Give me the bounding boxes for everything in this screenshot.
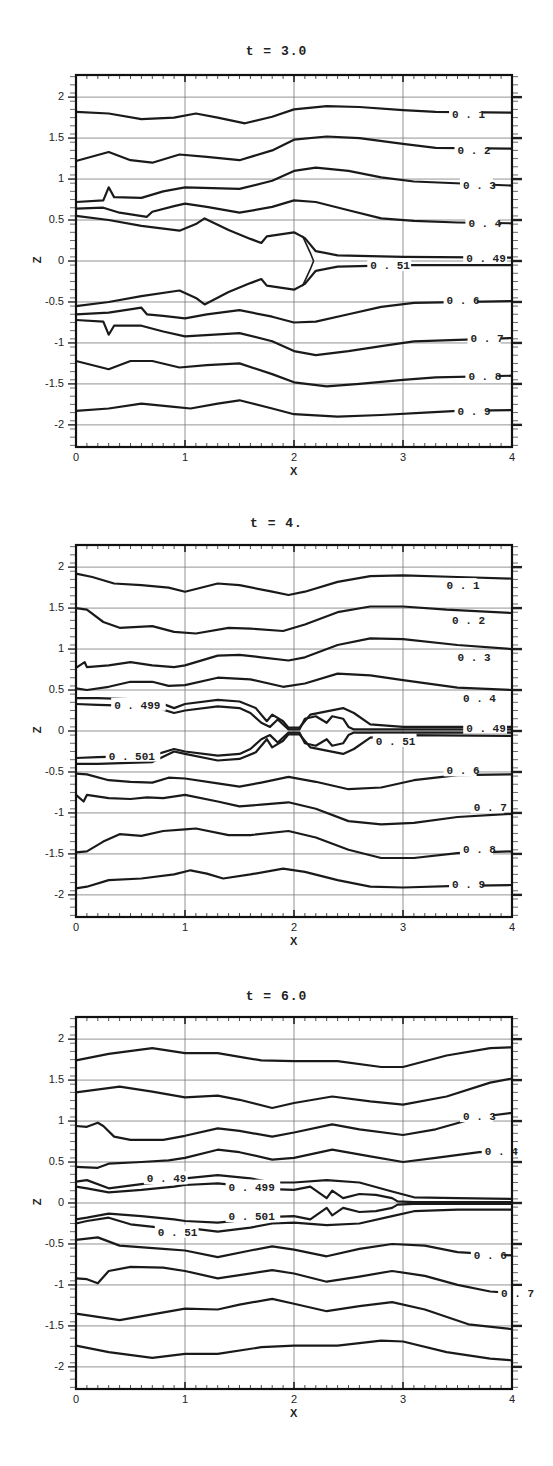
contour-label: 0 . 49: [466, 253, 506, 265]
contour-plot: 0 . 10 . 20 . 30 . 40 . 490 . 510 . 60 .…: [76, 75, 512, 447]
contour-label: 0 . 501: [229, 1211, 276, 1223]
contour-label: 0 . 4: [485, 1146, 518, 1158]
y-tick-label: 1: [34, 172, 64, 184]
y-tick-label: 0.5: [34, 683, 64, 695]
contour-label: 0 . 4: [463, 693, 496, 705]
y-tick-label: -2: [34, 418, 64, 430]
x-tick-label: 3: [393, 1393, 413, 1405]
x-tick-label: 2: [284, 1393, 304, 1405]
y-tick-label: -2: [34, 888, 64, 900]
y-tick-label: -1.5: [34, 1319, 64, 1331]
y-tick-label: 2: [34, 1032, 64, 1044]
contour-label: 0 . 8: [468, 371, 501, 383]
contour-label: 0 . 499: [114, 700, 160, 712]
x-tick-label: 3: [393, 451, 413, 463]
x-axis-label: X: [290, 1407, 297, 1419]
x-tick-label: 1: [175, 921, 195, 933]
contour-label: 0 . 3: [463, 180, 496, 192]
contour-label: 0 . 1: [447, 580, 480, 592]
panel-title: t = 3.0: [0, 44, 553, 59]
contour-label: 0 . 51: [376, 736, 416, 748]
x-tick-label: 1: [175, 1393, 195, 1405]
x-tick-label: 2: [284, 451, 304, 463]
contour-label: 0 . 2: [452, 615, 485, 627]
contour-label: 0 . 49: [147, 1173, 187, 1185]
x-tick-label: 0: [66, 921, 86, 933]
contour-label: 0 . 3: [463, 1111, 496, 1123]
x-tick-label: 3: [393, 921, 413, 933]
y-tick-label: 0.5: [34, 213, 64, 225]
contour-plot: 0 . 10 . 20 . 30 . 40 . 490 . 4990 . 501…: [76, 545, 512, 917]
x-tick-label: 0: [66, 1393, 86, 1405]
contour-label: 0 . 1: [452, 109, 485, 121]
y-tick-label: -1.5: [34, 847, 64, 859]
contour-label: 0 . 51: [370, 260, 410, 272]
contour-label: 0 . 6: [447, 765, 480, 777]
y-tick-label: -0.5: [34, 1237, 64, 1249]
y-tick-label: -1: [34, 1278, 64, 1290]
contour-label: 0 . 7: [474, 802, 507, 814]
y-tick-label: 1.5: [34, 1073, 64, 1085]
y-tick-label: 0.5: [34, 1155, 64, 1167]
contour-label: 0 . 4: [468, 218, 501, 230]
contour-label: 0 . 8: [463, 844, 496, 856]
contour-label: 0 . 7: [501, 1288, 534, 1300]
y-tick-label: 2: [34, 560, 64, 572]
y-tick-label: -1.5: [34, 377, 64, 389]
contour-label: 0 . 6: [447, 295, 480, 307]
x-tick-label: 2: [284, 921, 304, 933]
plot-area: 0 . 30 . 40 . 490 . 4990 . 5010 . 510 . …: [76, 1017, 512, 1389]
y-tick-label: 1: [34, 642, 64, 654]
contour-label: 0 . 499: [229, 1182, 275, 1194]
contour-label: 0 . 9: [458, 406, 491, 418]
y-tick-label: -0.5: [34, 765, 64, 777]
x-tick-label: 1: [175, 451, 195, 463]
panel-title: t = 4.: [0, 516, 553, 531]
y-tick-label: -1: [34, 336, 64, 348]
contour-label: 0 . 2: [458, 145, 491, 157]
y-tick-label: 1: [34, 1114, 64, 1126]
contour-label: 0 . 3: [458, 652, 491, 664]
y-tick-label: -0.5: [34, 295, 64, 307]
contour-label: 0 . 51: [158, 1227, 198, 1239]
plot-area: 0 . 10 . 20 . 30 . 40 . 490 . 4990 . 501…: [76, 545, 512, 917]
y-tick-label: 1.5: [34, 131, 64, 143]
contour-label: 0 . 501: [109, 751, 156, 763]
x-tick-label: 4: [502, 921, 522, 933]
panel-title: t = 6.0: [0, 989, 553, 1004]
y-tick-label: -2: [34, 1360, 64, 1372]
x-axis-label: X: [290, 465, 297, 477]
contour-label: 0 . 9: [452, 879, 485, 891]
y-axis-label: Z: [31, 727, 43, 734]
y-tick-label: 1.5: [34, 601, 64, 613]
x-tick-label: 0: [66, 451, 86, 463]
y-tick-label: -1: [34, 806, 64, 818]
contour-plot: 0 . 30 . 40 . 490 . 4990 . 5010 . 510 . …: [76, 1017, 512, 1389]
x-tick-label: 4: [502, 451, 522, 463]
contour-label: 0 . 6: [474, 1250, 507, 1262]
y-axis-label: Z: [31, 257, 43, 264]
contour-label: 0 . 7: [471, 333, 504, 345]
y-axis-label: Z: [31, 1199, 43, 1206]
x-axis-label: X: [290, 935, 297, 947]
contour-label: 0 . 49: [466, 723, 506, 735]
plot-area: 0 . 10 . 20 . 30 . 40 . 490 . 510 . 60 .…: [76, 75, 512, 447]
y-tick-label: 2: [34, 90, 64, 102]
x-tick-label: 4: [502, 1393, 522, 1405]
